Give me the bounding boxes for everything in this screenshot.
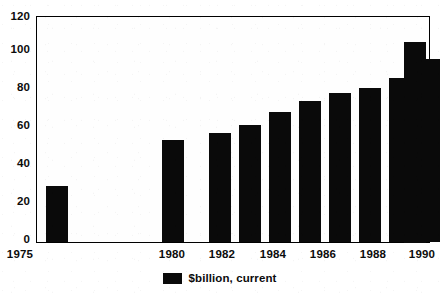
y-axis-tick-label-60: 60 <box>2 120 30 131</box>
bar-1980 <box>162 140 184 242</box>
bars-layer <box>37 17 429 242</box>
y-axis-tick-label-40: 40 <box>2 158 30 169</box>
y-axis-tick-label-0: 0 <box>2 234 30 245</box>
x-axis-tick-label-1982: 1982 <box>202 248 242 260</box>
y-axis-tick-label-100: 100 <box>2 44 30 55</box>
x-axis-tick-label-1984: 1984 <box>253 248 293 260</box>
chart-legend: $billion, current <box>0 272 439 284</box>
bar-1987 <box>359 88 381 242</box>
y-axis-tick-label-120: 120 <box>2 11 30 22</box>
bar-1990-final <box>404 42 426 244</box>
legend-swatch-icon <box>163 273 182 284</box>
x-axis-tick-label-1988: 1988 <box>353 248 393 260</box>
x-axis-tick-label-1990: 1990 <box>402 248 442 260</box>
x-axis-tick-label-1986: 1986 <box>303 248 343 260</box>
y-axis-tick-label-80: 80 <box>2 82 30 93</box>
bar-1985 <box>299 101 321 242</box>
bar-1975 <box>46 186 68 243</box>
plot-area <box>36 16 430 243</box>
bar-1982 <box>209 133 231 242</box>
bar-1986 <box>329 93 351 242</box>
bar-1983 <box>239 125 261 242</box>
legend-label: $billion, current <box>189 272 277 284</box>
bar-1984 <box>269 112 291 242</box>
y-axis-tick-label-20: 20 <box>2 196 30 207</box>
x-axis-tick-label-1975: 1975 <box>0 248 40 260</box>
x-axis-tick-label-1980: 1980 <box>152 248 192 260</box>
